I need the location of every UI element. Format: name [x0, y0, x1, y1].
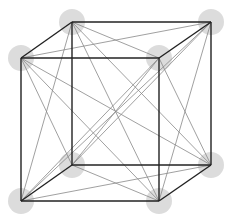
chord-line — [21, 165, 211, 201]
chord-line — [21, 58, 72, 165]
chord-line — [72, 58, 159, 165]
chord-line — [21, 22, 211, 58]
chord-layer — [21, 22, 211, 201]
chord-line — [159, 58, 211, 165]
cube-edge — [159, 22, 211, 58]
cube-edge — [159, 165, 211, 201]
cube-edge — [21, 165, 72, 201]
cube-graph-diagram — [0, 0, 233, 219]
cube-edge — [21, 22, 72, 58]
